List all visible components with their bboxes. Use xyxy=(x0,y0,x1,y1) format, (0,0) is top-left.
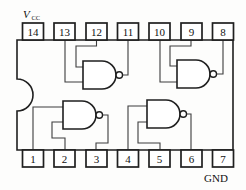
pin-box-14: 14 xyxy=(23,23,44,40)
inverter-bubble xyxy=(116,72,122,78)
pin-box-4: 4 xyxy=(118,150,139,167)
bottom-right-nand-gate xyxy=(147,100,187,128)
pin-number: 5 xyxy=(157,153,163,165)
pin-box-3: 3 xyxy=(86,150,107,167)
vcc-subscript: CC xyxy=(32,14,41,21)
pin-box-12: 12 xyxy=(86,23,107,40)
wire-output-pin6 xyxy=(187,114,192,150)
vcc-label: V CC xyxy=(23,8,40,21)
nand-body xyxy=(147,100,180,128)
top-left-nand-gate xyxy=(83,61,123,89)
pin-box-13: 13 xyxy=(54,23,75,40)
pin-number: 14 xyxy=(28,26,40,38)
pin-box-10: 10 xyxy=(149,23,170,40)
diagram-canvas: 14 13 12 11 10 9 8 1 xyxy=(0,0,246,190)
pin-number: 12 xyxy=(91,26,102,38)
vcc-symbol: V xyxy=(23,8,31,20)
inverter-bubble xyxy=(210,71,216,77)
nand-body xyxy=(83,61,116,89)
pin-number: 11 xyxy=(123,26,134,38)
inverter-bubble xyxy=(96,112,102,118)
pin-box-6: 6 xyxy=(181,150,202,167)
ic-pinout-diagram: 14 13 12 11 10 9 8 1 xyxy=(0,0,246,190)
gnd-label: GND xyxy=(204,172,228,184)
top-right-nand-gate xyxy=(177,60,217,88)
pin-number: 2 xyxy=(62,153,68,165)
pin-number: 10 xyxy=(154,26,166,38)
pin-number: 9 xyxy=(189,26,195,38)
inverter-bubble xyxy=(180,111,186,117)
pin-box-2: 2 xyxy=(54,150,75,167)
ic-package-body xyxy=(17,40,233,150)
pin-box-1: 1 xyxy=(23,150,44,167)
pin-number: 3 xyxy=(94,153,100,165)
pin-number: 8 xyxy=(220,26,226,38)
pin-box-7: 7 xyxy=(213,150,234,167)
pin-number: 13 xyxy=(59,26,71,38)
wire-output-pin11 xyxy=(123,40,129,75)
wire-output-pin8 xyxy=(217,40,224,74)
nand-body xyxy=(63,101,96,129)
nand-body xyxy=(177,60,210,88)
pin-number: 1 xyxy=(30,153,36,165)
pin-box-8: 8 xyxy=(213,23,234,40)
bottom-left-nand-gate xyxy=(63,101,103,129)
pin-box-9: 9 xyxy=(181,23,202,40)
pin-box-11: 11 xyxy=(118,23,139,40)
pin-number: 6 xyxy=(189,153,195,165)
pin-number: 7 xyxy=(220,153,226,165)
pin-number: 4 xyxy=(125,153,131,165)
pin-box-5: 5 xyxy=(149,150,170,167)
wire-pin1-input xyxy=(33,107,63,150)
wire-output-pin3 xyxy=(96,115,108,150)
